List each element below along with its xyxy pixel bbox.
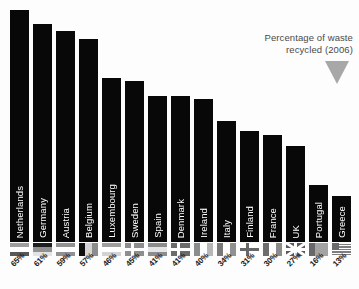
- bar-label: Spain: [153, 213, 163, 238]
- bar-denmark: Denmark: [171, 96, 190, 242]
- percent-label-cell: 27%: [286, 258, 305, 286]
- bar-label: Netherlands: [15, 186, 25, 238]
- bar-germany: Germany: [33, 24, 52, 242]
- percent-label-cell: 34%: [217, 258, 236, 286]
- bar-label: UK: [291, 225, 301, 238]
- percent-label-row: 65%61%59%57%46%45%41%41%40%34%31%30%27%1…: [10, 258, 354, 286]
- percent-label-cell: 41%: [148, 258, 167, 286]
- bar-column: Portugal: [309, 10, 328, 242]
- bar-italy: Italy: [217, 121, 236, 242]
- bar-column: Germany: [33, 10, 52, 242]
- bar-column: Belgium: [79, 10, 98, 242]
- bar-column: Spain: [148, 10, 167, 242]
- bar-label: Denmark: [176, 199, 186, 238]
- bar-france: France: [263, 135, 282, 242]
- bar-netherlands: Netherlands: [10, 10, 29, 242]
- bar-column: Netherlands: [10, 10, 29, 242]
- bar-column: Denmark: [171, 10, 190, 242]
- bar-column: Finland: [240, 10, 259, 242]
- percent-label-cell: 59%: [56, 258, 75, 286]
- bar-portugal: Portugal: [309, 185, 328, 242]
- bar-column: Austria: [56, 10, 75, 242]
- bar-column: Ireland: [194, 10, 213, 242]
- bar-label: Ireland: [199, 208, 209, 238]
- percent-label-cell: 57%: [79, 258, 98, 286]
- bar-column: UK: [286, 10, 305, 242]
- bar-sweden: Sweden: [125, 81, 144, 242]
- bar-uk: UK: [286, 146, 305, 242]
- bar-spain: Spain: [148, 96, 167, 242]
- bar-label: Finland: [245, 206, 255, 238]
- bar-label: France: [268, 208, 278, 238]
- percent-label-cell: 31%: [240, 258, 259, 286]
- bar-label: Italy: [222, 220, 232, 238]
- bar-ireland: Ireland: [194, 99, 213, 242]
- bar-label: Germany: [38, 198, 48, 238]
- bar-column: Sweden: [125, 10, 144, 242]
- bar-column: Greece: [332, 10, 351, 242]
- bar-label: Belgium: [84, 203, 94, 238]
- bar-column: France: [263, 10, 282, 242]
- percent-label-cell: 61%: [33, 258, 52, 286]
- bar-label: Luxembourg: [107, 184, 117, 238]
- bar-belgium: Belgium: [79, 39, 98, 242]
- bar-luxembourg: Luxembourg: [102, 78, 121, 242]
- plot-area: NetherlandsGermanyAustriaBelgiumLuxembou…: [10, 10, 354, 242]
- bar-label: Austria: [61, 208, 71, 238]
- waste-recycling-bar-chart: Percentage of waste recycled (2006) Neth…: [0, 0, 359, 289]
- bar-finland: Finland: [240, 131, 259, 242]
- percent-label-cell: 41%: [171, 258, 190, 286]
- percent-label-cell: 13%: [332, 258, 351, 286]
- percent-label-cell: 40%: [194, 258, 213, 286]
- bar-label: Greece: [337, 206, 347, 238]
- percent-label-cell: 45%: [125, 258, 144, 286]
- percent-label-cell: 30%: [263, 258, 282, 286]
- bar-greece: Greece: [332, 196, 351, 242]
- bar-austria: Austria: [56, 31, 75, 242]
- bar-label: Sweden: [130, 203, 140, 238]
- bar-label: Portugal: [314, 202, 324, 238]
- percent-label-cell: 46%: [102, 258, 121, 286]
- bar-column: Luxembourg: [102, 10, 121, 242]
- bar-column: Italy: [217, 10, 236, 242]
- percent-label-cell: 65%: [10, 258, 29, 286]
- percent-label-cell: 16%: [309, 258, 328, 286]
